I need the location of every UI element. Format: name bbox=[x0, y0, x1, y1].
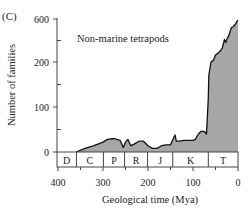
period-label: T bbox=[220, 155, 226, 166]
y-tick-label: 200 bbox=[34, 57, 49, 68]
x-tick-label: 200 bbox=[141, 177, 156, 188]
chart: (C) 0100200600 Number of families Non-ma… bbox=[0, 0, 250, 211]
period-label: D bbox=[63, 155, 70, 166]
period-label: P bbox=[111, 155, 117, 166]
series-label: Non-marine tetrapods bbox=[77, 33, 169, 44]
x-axis: 4003002001000 bbox=[51, 167, 241, 188]
panel-label: (C) bbox=[2, 10, 17, 23]
x-axis-label: Geological time (Mya) bbox=[102, 194, 199, 206]
x-tick-label: 400 bbox=[51, 177, 66, 188]
y-tick-label: 600 bbox=[34, 14, 49, 25]
period-label: K bbox=[187, 155, 195, 166]
y-axis: 0100200600 bbox=[34, 14, 61, 158]
period-label: J bbox=[158, 155, 162, 166]
period-bar: DCPRJKT bbox=[57, 152, 238, 167]
x-tick-label: 0 bbox=[236, 177, 241, 188]
y-axis-label: Number of families bbox=[6, 44, 17, 126]
period-label: C bbox=[87, 155, 94, 166]
x-tick-label: 300 bbox=[96, 177, 111, 188]
y-tick-label: 0 bbox=[44, 147, 49, 158]
period-label: R bbox=[133, 155, 140, 166]
y-tick-label: 100 bbox=[34, 102, 49, 113]
x-tick-label: 100 bbox=[186, 177, 201, 188]
